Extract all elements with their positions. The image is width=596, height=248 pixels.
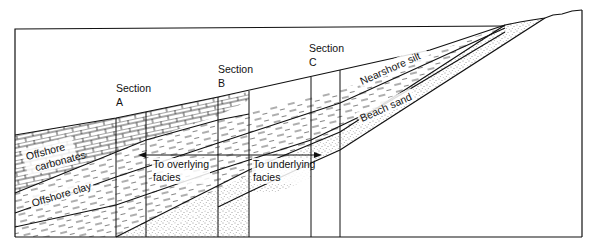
section-c-letter: C <box>309 56 317 68</box>
section-b-label: Section <box>218 63 253 75</box>
to-underlying-label: To underlying <box>253 158 316 170</box>
section-a-label: Section <box>116 82 151 94</box>
section-c-label: Section <box>309 42 344 54</box>
hill-profile <box>505 10 582 25</box>
to-overlying-label: To overlying <box>153 158 209 170</box>
facies-cross-section-diagram: Section A Section B Section C Offshore c… <box>0 0 596 248</box>
section-a-letter: A <box>116 96 123 108</box>
section-b-letter: B <box>218 77 225 89</box>
to-overlying-label-2: facies <box>153 171 180 183</box>
to-underlying-label-2: facies <box>253 171 280 183</box>
